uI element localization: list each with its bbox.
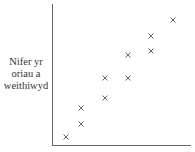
data-point-x-marker [126,76,131,81]
data-point-x-marker [103,76,108,81]
data-point-x-marker [126,53,131,58]
data-point-x-marker [149,49,154,54]
data-point-x-marker [149,34,154,39]
scatter-plot [0,0,195,152]
data-point-x-marker [103,96,108,101]
data-point-x-marker [64,135,69,140]
data-point-x-marker [79,122,84,127]
data-point-x-marker [79,106,84,111]
data-point-x-marker [171,18,176,23]
data-markers [64,18,176,140]
